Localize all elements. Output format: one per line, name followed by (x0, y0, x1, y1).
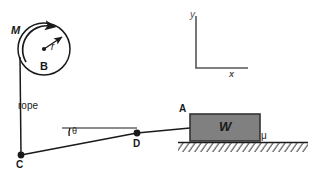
physics-diagram: M B r rope θ C D A W μ y x (0, 0, 320, 178)
label-point-a: A (179, 104, 186, 114)
rotation-arrow (23, 26, 50, 62)
label-angle-theta: θ (72, 127, 77, 136)
label-point-c: C (16, 160, 23, 170)
label-rope: rope (18, 101, 38, 111)
rope-segment-inclined (21, 133, 137, 155)
label-drum-body: B (40, 61, 48, 72)
label-friction-coefficient: μ (261, 131, 267, 141)
label-drum-mass: M (11, 25, 20, 36)
diagram-canvas (0, 0, 320, 178)
ground-hatching (178, 143, 308, 152)
label-y-axis: y (190, 10, 195, 20)
angle-arc (69, 128, 70, 136)
label-radius: r (51, 42, 54, 52)
point-c-dot (18, 152, 25, 159)
rope-segment-horizontal (137, 128, 190, 133)
label-point-d: D (133, 139, 140, 149)
label-block-weight: W (219, 120, 231, 133)
label-x-axis: x (229, 70, 234, 79)
point-d-dot (134, 130, 141, 137)
